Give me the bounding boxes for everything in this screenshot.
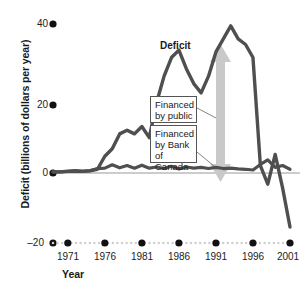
financed-by-public-callout: Financed by public: [150, 96, 197, 123]
financed-by-bank-of-canada-callout: Financed by Bank of Canada: [150, 125, 197, 163]
callout-public-line1: Financed: [155, 99, 193, 110]
callout-boc-line2: by Bank of: [155, 139, 193, 161]
callout-public-line2: by public: [155, 110, 193, 121]
x-axis-tick-dots: [52, 239, 294, 246]
callout-leader-lines: [197, 108, 216, 166]
deficit-chart-figure: Deficit (billions of dollars per year) Y…: [0, 0, 307, 297]
callout-boc-line3: Canada: [155, 161, 193, 172]
callout-boc-line1: Financed: [155, 128, 193, 139]
y-axis-tick-dots: [49, 20, 56, 246]
